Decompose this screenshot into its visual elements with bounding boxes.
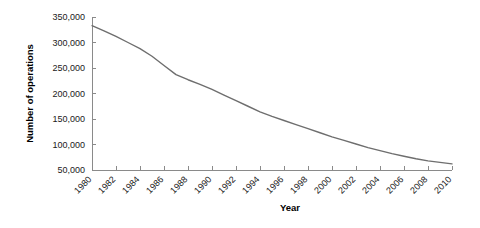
- x-tick-label: 2006: [384, 174, 405, 195]
- x-tick-label: 1990: [192, 174, 213, 195]
- x-tick-label: 1994: [240, 174, 261, 195]
- x-axis-tick-marks: [92, 166, 452, 170]
- data-series-line: [92, 26, 452, 164]
- x-tick-label: 2004: [360, 174, 381, 195]
- x-tick-label: 1982: [96, 174, 117, 195]
- x-tick-label: 1992: [216, 174, 237, 195]
- x-tick-label: 1988: [168, 174, 189, 195]
- x-tick-label: 1984: [120, 174, 141, 195]
- x-tick-label: 1996: [264, 174, 285, 195]
- x-tick-label: 2002: [336, 174, 357, 195]
- y-tick-label: 350,000: [52, 12, 85, 22]
- y-axis-tick-labels: 350,000300,000250,000200,000150,000100,0…: [52, 12, 85, 175]
- x-tick-label: 1986: [144, 174, 165, 195]
- line-chart: 350,000300,000250,000200,000150,000100,0…: [0, 0, 480, 228]
- y-tick-label: 200,000: [52, 89, 85, 99]
- x-axis-tick-labels: 1980198219841986198819901992199419961998…: [72, 174, 453, 195]
- y-tick-label: 150,000: [52, 114, 85, 124]
- x-tick-label: 2010: [432, 174, 453, 195]
- y-axis-tick-marks: [92, 17, 96, 170]
- y-tick-label: 300,000: [52, 38, 85, 48]
- y-tick-label: 100,000: [52, 140, 85, 150]
- x-tick-label: 1980: [72, 174, 93, 195]
- y-tick-label: 50,000: [57, 165, 85, 175]
- y-axis-title: Number of operations: [24, 44, 35, 143]
- x-tick-label: 2000: [312, 174, 333, 195]
- x-tick-label: 2008: [408, 174, 429, 195]
- x-tick-label: 1998: [288, 174, 309, 195]
- y-tick-label: 250,000: [52, 63, 85, 73]
- chart-figure: 350,000300,000250,000200,000150,000100,0…: [0, 0, 480, 228]
- x-axis-title: Year: [280, 202, 300, 213]
